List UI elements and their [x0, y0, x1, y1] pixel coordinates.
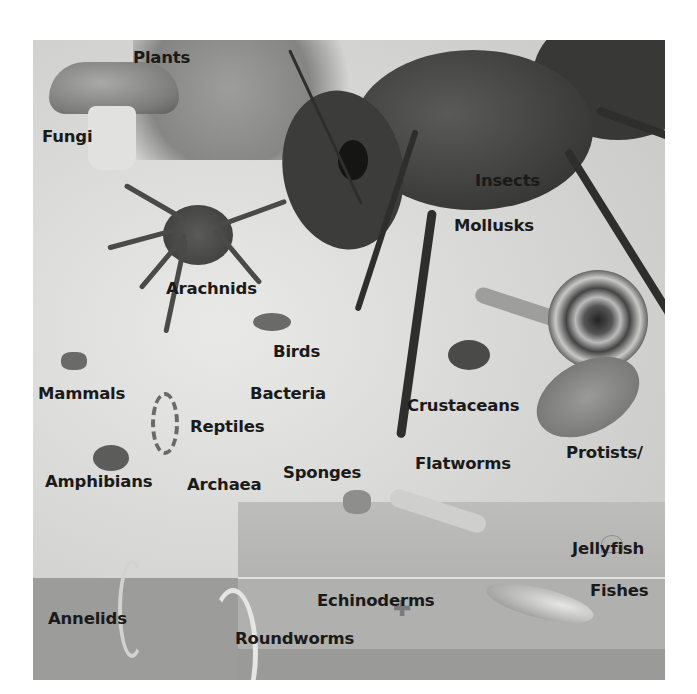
label-protists: Protists/ [566, 444, 643, 462]
label-jellyfish: Jellyfish [572, 540, 644, 558]
label-birds: Birds [273, 343, 320, 361]
mushroom-stem [88, 106, 136, 170]
label-echinoderms: Echinoderms [317, 592, 435, 610]
snake [151, 392, 179, 455]
crab [448, 340, 490, 370]
diversity-of-life-illustration: ✚ [33, 40, 665, 680]
label-plants: Plants [133, 49, 190, 67]
bird [253, 313, 291, 331]
label-archaea: Archaea [187, 476, 262, 494]
deer [61, 352, 87, 370]
label-crustaceans: Crustaceans [407, 397, 519, 415]
label-mammals: Mammals [38, 385, 125, 403]
label-roundworms: Roundworms [235, 630, 354, 648]
frog [93, 445, 129, 471]
label-flatworms: Flatworms [415, 455, 511, 473]
label-sponges: Sponges [283, 464, 361, 482]
label-fungi: Fungi [42, 128, 92, 146]
label-arachnids: Arachnids [166, 280, 257, 298]
snail-shell [548, 270, 648, 370]
label-fishes: Fishes [590, 582, 648, 600]
label-mollusks: Mollusks [454, 217, 534, 235]
sponge [343, 490, 371, 514]
label-annelids: Annelids [48, 610, 127, 628]
label-amphibians: Amphibians [45, 473, 152, 491]
label-reptiles: Reptiles [190, 418, 264, 436]
label-insects: Insects [475, 172, 540, 190]
label-bacteria: Bacteria [250, 385, 326, 403]
sea-floor [238, 649, 665, 680]
